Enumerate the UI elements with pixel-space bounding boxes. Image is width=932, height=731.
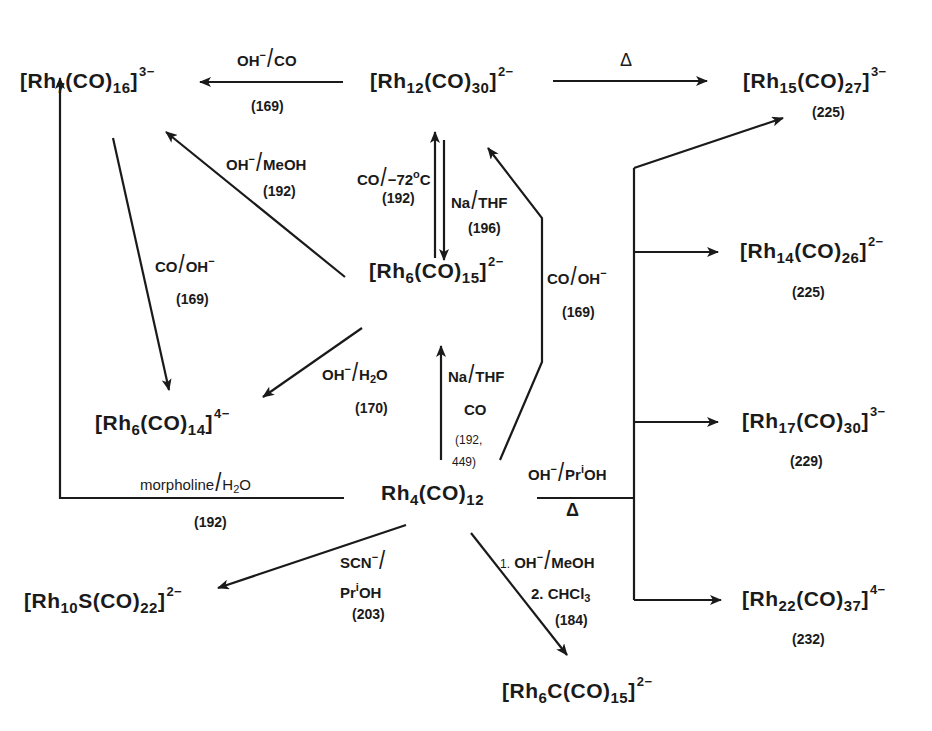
label-rh4-to-rh7: morpholine/H2O xyxy=(140,470,251,496)
slash: / xyxy=(544,546,550,576)
compound-rh17-co30: [Rh17(CO)30]3− xyxy=(742,404,886,436)
slash: / xyxy=(571,262,577,292)
ref-rh14: (225) xyxy=(792,284,825,300)
label-rh4-to-rh6c-step1: 1. OH−/MeOH xyxy=(500,548,595,574)
ref-rh4-to-rh7: (192) xyxy=(194,514,227,530)
slash: / xyxy=(267,44,273,74)
label-rh4-to-rh6: Na/THF xyxy=(448,362,504,388)
ref-rh6-to-rh7: (192) xyxy=(263,183,296,199)
ref-rh12-to-rh6: (192) xyxy=(382,190,415,206)
ref-rh4-to-rh6-b: 449) xyxy=(452,455,476,469)
ref-rh4-to-rh6-a: (192, xyxy=(455,433,482,447)
label-rh4-to-high-heat: Δ xyxy=(566,500,579,521)
label-rh4-to-high: OH−/PriOH xyxy=(528,460,606,486)
compound-rh6-co14: [Rh6(CO)14]4− xyxy=(95,406,230,438)
slash: / xyxy=(215,468,221,498)
ref-rh12-to-rh7: (169) xyxy=(251,98,284,114)
slash: / xyxy=(352,358,358,388)
label-rh4-to-rh12: CO/OH− xyxy=(547,264,607,290)
compound-rh12-co30: [Rh12(CO)30]2− xyxy=(370,64,514,96)
ref-rh15: (225) xyxy=(812,104,845,120)
label-rh12-to-rh6: CO/−72oC xyxy=(357,165,431,191)
slash: / xyxy=(381,163,387,193)
compound-rh22-co37: [Rh22(CO)37]4− xyxy=(742,582,886,614)
ref-rh17: (229) xyxy=(790,453,823,469)
arrow-to-rh15 xyxy=(634,118,783,168)
label-rh6-to-rh7: OH−/MeOH xyxy=(226,150,306,176)
ref-rh22: (232) xyxy=(792,631,825,647)
slash: / xyxy=(379,546,385,576)
label-rh4-to-rh6-co: CO xyxy=(464,401,487,418)
slash: / xyxy=(558,458,564,488)
compound-rh15-co27: [Rh15(CO)27]3− xyxy=(743,64,887,96)
ref-rh4-to-rh12: (169) xyxy=(562,304,595,320)
ref-rh4-to-rh10s: (203) xyxy=(352,606,385,622)
ref-rh6-to-rh12: (196) xyxy=(468,220,501,236)
label-rh6-to-rh6co14: OH−/H2O xyxy=(322,360,388,386)
slash: / xyxy=(471,186,477,216)
compound-rh6-c-co15: [Rh6C(CO)15]2− xyxy=(502,674,653,706)
label-rh6-to-rh12: Na/THF xyxy=(451,188,507,214)
ref-rh4-to-rh6c: (184) xyxy=(555,612,588,628)
label-rh12-to-rh15-heat: Δ xyxy=(620,50,632,71)
compound-rh4-co12: Rh4(CO)12 xyxy=(381,481,484,508)
compound-rh10-s-co22: [Rh10S(CO)22]2− xyxy=(24,584,182,616)
label-rh4-to-rh6c-step2: 2. CHCl3 xyxy=(531,585,590,604)
slash: / xyxy=(468,360,474,390)
compound-rh14-co26: [Rh14(CO)26]2− xyxy=(740,234,884,266)
compound-rh6-co15: [Rh6(CO)15]2− xyxy=(369,254,504,286)
label-rh7-to-rh6co14: CO/OH− xyxy=(155,252,215,278)
ref-rh6-to-rh6co14: (170) xyxy=(355,400,388,416)
label-rh4-to-rh10s: SCN−/ xyxy=(340,548,386,574)
label-rh4-to-rh10s-line2: PriOH xyxy=(340,581,381,601)
compound-rh7-co16: [Rh7(CO)16]3− xyxy=(20,64,155,96)
slash: / xyxy=(179,250,185,280)
label-rh12-to-rh7: OH−/CO xyxy=(237,46,297,72)
ref-rh7-to-rh6co14: (169) xyxy=(176,291,209,307)
slash: / xyxy=(256,148,262,178)
